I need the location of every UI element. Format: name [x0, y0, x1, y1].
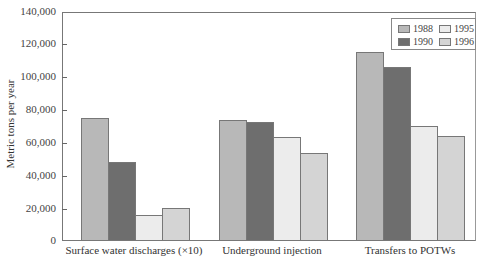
legend-swatch	[439, 25, 451, 33]
y-tick-mark	[62, 209, 67, 210]
bar-1996	[300, 153, 328, 241]
legend-item-1990: 1990	[398, 36, 433, 47]
y-tick: 120,000	[4, 37, 56, 49]
y-tick: 80,000	[4, 103, 56, 115]
x-category-label: Surface water discharges (×10)	[62, 244, 206, 256]
legend-label: 1996	[454, 36, 474, 47]
legend-label: 1990	[413, 36, 433, 47]
bar-1990	[108, 162, 136, 241]
bar-1996	[437, 136, 465, 241]
bar-1995	[135, 215, 163, 241]
legend: 1988 1995 1990 1996	[391, 18, 476, 50]
y-tick: 40,000	[4, 169, 56, 181]
legend-item-1995: 1995	[439, 23, 474, 34]
y-tick-mark	[62, 143, 67, 144]
x-category-label: Transfers to POTWs	[338, 244, 482, 256]
y-tick: 60,000	[4, 136, 56, 148]
legend-swatch	[398, 25, 410, 33]
x-category-label: Underground injection	[200, 244, 344, 256]
bar-1990	[246, 122, 274, 241]
legend-item-1988: 1988	[398, 23, 433, 34]
y-axis-label: Metric tons per year	[4, 69, 16, 179]
bar-1988	[81, 118, 109, 241]
bar-1996	[162, 208, 190, 241]
legend-swatch	[439, 38, 451, 46]
legend-item-1996: 1996	[439, 36, 474, 47]
bar-1990	[383, 67, 411, 241]
y-tick-mark	[62, 110, 67, 111]
legend-label: 1995	[454, 23, 474, 34]
bar-1995	[273, 137, 301, 241]
y-tick-mark	[62, 44, 67, 45]
y-tick: 20,000	[4, 202, 56, 214]
y-tick-mark	[62, 176, 67, 177]
bar-1988	[219, 120, 247, 241]
bar-1995	[410, 126, 438, 241]
y-tick: 140,000	[4, 5, 56, 17]
y-tick-mark	[62, 77, 67, 78]
legend-swatch	[398, 38, 410, 46]
y-tick: 100,000	[4, 70, 56, 82]
bar-1988	[356, 52, 384, 241]
legend-label: 1988	[413, 23, 433, 34]
y-tick: 0	[4, 234, 56, 246]
